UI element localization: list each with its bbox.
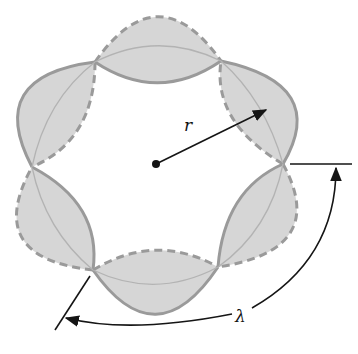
- wavelength-indicator: λ: [55, 164, 352, 330]
- lobe-top-left: [18, 62, 95, 167]
- radius-label: r: [184, 115, 193, 135]
- wavelength-label: λ: [234, 306, 246, 326]
- lobe-bottom-right: [218, 164, 297, 267]
- lobe-top: [95, 17, 221, 83]
- lobe-bottom-left: [16, 167, 94, 270]
- wavelength-arc-left: [66, 314, 232, 325]
- standing-wave-ring-diagram: r λ: [0, 0, 358, 354]
- lobe-bottom: [93, 250, 218, 314]
- lobe-top-right: [220, 61, 297, 164]
